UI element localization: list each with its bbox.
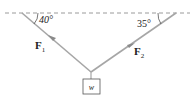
rope-left	[22, 13, 91, 72]
angle-label-left: 40°	[39, 14, 53, 25]
weight-label: w	[89, 83, 95, 92]
rope-right	[91, 13, 176, 72]
angle-label-right: 35°	[137, 18, 151, 29]
force-diagram: 40° 35° F1 F2 w	[0, 0, 193, 101]
force-label-f1: F1	[35, 39, 46, 54]
angle-arc-right	[158, 13, 161, 24]
force-label-f2: F2	[134, 45, 145, 60]
angle-arc-left	[34, 13, 38, 24]
